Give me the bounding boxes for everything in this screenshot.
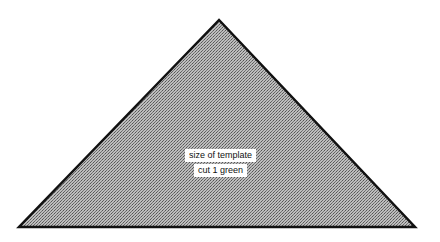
triangle-shape [19,20,415,227]
label-size-of-template: size of template [185,149,256,162]
label-cut-1-green: cut 1 green [194,164,247,177]
triangle-template-diagram [0,0,440,242]
